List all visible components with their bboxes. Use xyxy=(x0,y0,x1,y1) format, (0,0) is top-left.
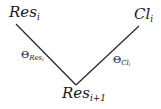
node-cl-i-base: Cl xyxy=(134,5,150,23)
theta-cl-sub: Cl xyxy=(121,59,129,67)
node-res-i1: Resi+1 xyxy=(62,86,106,103)
theta-symbol: Θ xyxy=(21,49,29,60)
theta-res-subsub: i xyxy=(42,56,44,62)
node-res-i1-sub: i+1 xyxy=(90,93,106,103)
node-res-i: Resi xyxy=(9,5,40,22)
node-res-i-sub: i xyxy=(37,12,40,22)
node-cl-i-sub: i xyxy=(150,14,153,24)
theta-symbol: Θ xyxy=(113,54,121,65)
angle-theta-cl-i: ΘCli xyxy=(113,55,130,67)
node-cl-i: Cli xyxy=(134,7,153,24)
node-res-i-base: Res xyxy=(9,3,37,21)
theta-cl-subsub: i xyxy=(129,61,131,67)
node-res-i1-base: Res xyxy=(62,84,90,102)
angle-theta-res-i: ΘResi xyxy=(21,50,44,62)
theta-res-sub: Res xyxy=(29,54,42,62)
